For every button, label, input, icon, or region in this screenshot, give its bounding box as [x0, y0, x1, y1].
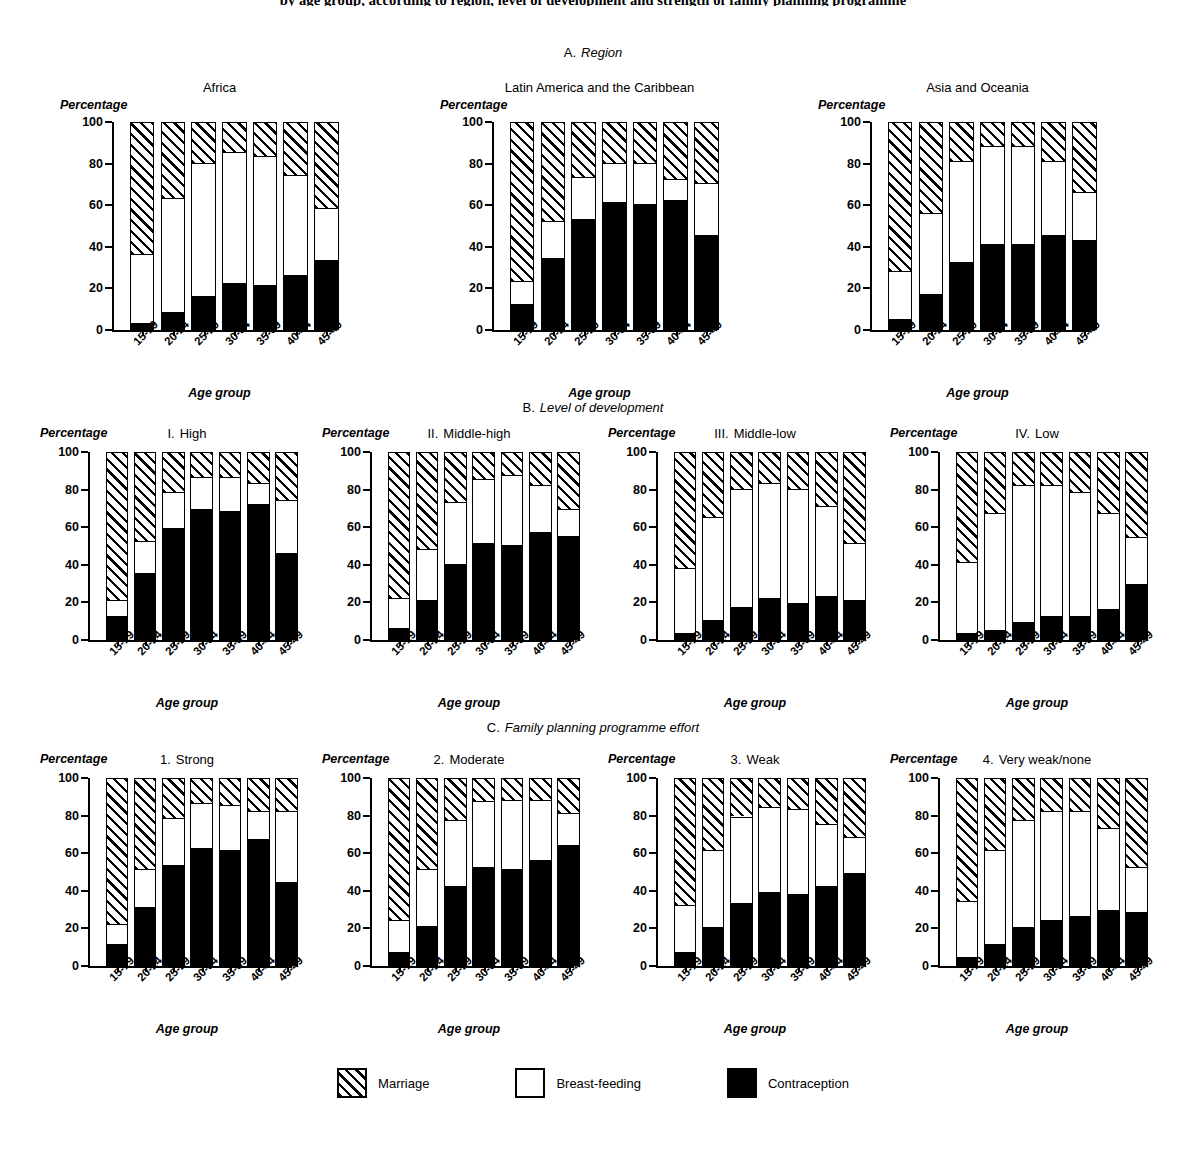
- y-axis-tick: [649, 451, 656, 453]
- stacked-bar[interactable]: [663, 122, 688, 330]
- stacked-bar[interactable]: [1125, 452, 1148, 640]
- bar-segment-marriage: [634, 122, 657, 163]
- stacked-bar[interactable]: [416, 452, 439, 640]
- bar-segment-breastfeeding: [389, 598, 410, 628]
- bar-segment-marriage: [558, 778, 579, 813]
- stacked-bar[interactable]: [815, 778, 838, 966]
- bar-segment-contraception: [473, 867, 494, 965]
- stacked-bar[interactable]: [501, 778, 524, 966]
- section-b-letter: B.: [523, 400, 535, 415]
- stacked-bar[interactable]: [758, 778, 781, 966]
- stacked-bar[interactable]: [191, 122, 216, 330]
- stacked-bar[interactable]: [283, 122, 308, 330]
- stacked-bar[interactable]: [888, 122, 913, 330]
- stacked-bar[interactable]: [444, 452, 467, 640]
- chart-panel: AfricaPercentage02040608010015-1920-2425…: [112, 122, 327, 330]
- stacked-bar[interactable]: [1125, 778, 1148, 966]
- stacked-bar[interactable]: [758, 452, 781, 640]
- stacked-bar[interactable]: [980, 122, 1005, 330]
- stacked-bar[interactable]: [314, 122, 339, 330]
- stacked-bar[interactable]: [222, 122, 247, 330]
- chart-panel: 2.ModeratePercentage02040608010015-1920-…: [370, 778, 568, 966]
- stacked-bar[interactable]: [472, 452, 495, 640]
- stacked-bar[interactable]: [1041, 122, 1066, 330]
- stacked-bar[interactable]: [557, 452, 580, 640]
- stacked-bar[interactable]: [1069, 778, 1092, 966]
- bar-segment-contraception: [664, 200, 687, 329]
- y-axis-tick: [863, 163, 870, 165]
- stacked-bar[interactable]: [1072, 122, 1097, 330]
- stacked-bar[interactable]: [1012, 452, 1035, 640]
- stacked-bar[interactable]: [219, 778, 242, 966]
- stacked-bar[interactable]: [134, 452, 157, 640]
- stacked-bar[interactable]: [501, 452, 524, 640]
- stacked-bar[interactable]: [571, 122, 596, 330]
- bar-segment-breastfeeding: [1013, 820, 1034, 927]
- stacked-bar[interactable]: [694, 122, 719, 330]
- stacked-bar[interactable]: [388, 778, 411, 966]
- panel-title: IV.Low: [938, 426, 1136, 441]
- stacked-bar[interactable]: [674, 452, 697, 640]
- stacked-bar[interactable]: [956, 778, 979, 966]
- stacked-bar[interactable]: [106, 778, 129, 966]
- stacked-bar[interactable]: [1040, 452, 1063, 640]
- stacked-bar[interactable]: [416, 778, 439, 966]
- stacked-bar[interactable]: [529, 452, 552, 640]
- y-axis-tick: [363, 815, 370, 817]
- stacked-bar[interactable]: [984, 778, 1007, 966]
- stacked-bar[interactable]: [702, 452, 725, 640]
- stacked-bar[interactable]: [190, 452, 213, 640]
- stacked-bar[interactable]: [1097, 778, 1120, 966]
- stacked-bar[interactable]: [787, 452, 810, 640]
- stacked-bar[interactable]: [956, 452, 979, 640]
- stacked-bar[interactable]: [984, 452, 1007, 640]
- stacked-bar[interactable]: [1097, 452, 1120, 640]
- stacked-bar[interactable]: [130, 122, 155, 330]
- y-axis-tick-label: 20: [65, 596, 79, 609]
- stacked-bar[interactable]: [134, 778, 157, 966]
- stacked-bar[interactable]: [633, 122, 658, 330]
- stacked-bar[interactable]: [190, 778, 213, 966]
- y-axis: [938, 778, 940, 966]
- stacked-bar[interactable]: [815, 452, 838, 640]
- y-axis-tick: [485, 204, 492, 206]
- bar-segment-contraception: [220, 850, 241, 965]
- bar-segment-marriage: [664, 122, 687, 179]
- stacked-bar[interactable]: [557, 778, 580, 966]
- stacked-bar[interactable]: [787, 778, 810, 966]
- stacked-bar[interactable]: [1012, 778, 1035, 966]
- stacked-bar[interactable]: [949, 122, 974, 330]
- stacked-bar[interactable]: [161, 122, 186, 330]
- stacked-bar[interactable]: [247, 778, 270, 966]
- stacked-bar[interactable]: [541, 122, 566, 330]
- stacked-bar[interactable]: [162, 452, 185, 640]
- stacked-bar[interactable]: [162, 778, 185, 966]
- stacked-bar[interactable]: [247, 452, 270, 640]
- stacked-bar[interactable]: [275, 452, 298, 640]
- stacked-bar[interactable]: [275, 778, 298, 966]
- stacked-bar[interactable]: [253, 122, 278, 330]
- bar-segment-breastfeeding: [920, 213, 943, 294]
- stacked-bar[interactable]: [1011, 122, 1036, 330]
- bar-segment-breastfeeding: [1042, 161, 1065, 236]
- stacked-bar[interactable]: [472, 778, 495, 966]
- stacked-bar[interactable]: [702, 778, 725, 966]
- stacked-bar[interactable]: [919, 122, 944, 330]
- stacked-bar[interactable]: [1040, 778, 1063, 966]
- stacked-bar[interactable]: [1069, 452, 1092, 640]
- stacked-bar[interactable]: [843, 778, 866, 966]
- stacked-bar[interactable]: [602, 122, 627, 330]
- stacked-bar[interactable]: [843, 452, 866, 640]
- stacked-bar[interactable]: [730, 452, 753, 640]
- stacked-bar[interactable]: [674, 778, 697, 966]
- stacked-bar[interactable]: [730, 778, 753, 966]
- panel-number: IV.: [1015, 426, 1035, 441]
- stacked-bar[interactable]: [388, 452, 411, 640]
- stacked-bar[interactable]: [510, 122, 535, 330]
- stacked-bar[interactable]: [444, 778, 467, 966]
- stacked-bar[interactable]: [219, 452, 242, 640]
- bar-segment-breastfeeding: [276, 811, 297, 882]
- stacked-bar[interactable]: [106, 452, 129, 640]
- stacked-bar[interactable]: [529, 778, 552, 966]
- bar-segment-breastfeeding: [511, 281, 534, 304]
